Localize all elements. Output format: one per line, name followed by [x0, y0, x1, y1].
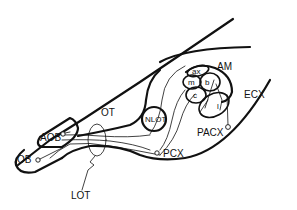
label-am: AM [217, 61, 232, 72]
label-ob: OB [17, 154, 32, 165]
label-aob: AOB [40, 132, 61, 143]
label-pcx: PCX [163, 148, 184, 159]
aob-marker [61, 132, 65, 136]
label-ecx: ECX [244, 89, 265, 100]
label-nlot: NLOT [145, 115, 166, 124]
label-pacx: PACX [197, 127, 224, 138]
label-lot: LOT [71, 190, 90, 201]
pcx-marker [155, 151, 159, 155]
label-subnucleus-b: b [205, 78, 210, 87]
label-subnucleus-l: l [217, 102, 219, 111]
aob-connector [65, 132, 70, 133]
olfactory-tubercle-boundary [78, 70, 160, 136]
label-ot: OT [101, 107, 115, 118]
lot-pointer-line [82, 156, 95, 190]
label-subnucleus-ax: ax [192, 67, 200, 76]
ob-marker [36, 158, 40, 162]
label-subnucleus-c: c [193, 91, 197, 100]
olfactory-pathway-diagram: OB AOB OT NLOT AM ECX PACX PCX LOT ax m … [0, 0, 297, 210]
pacx-marker [226, 125, 231, 130]
label-subnucleus-m: m [188, 78, 195, 87]
